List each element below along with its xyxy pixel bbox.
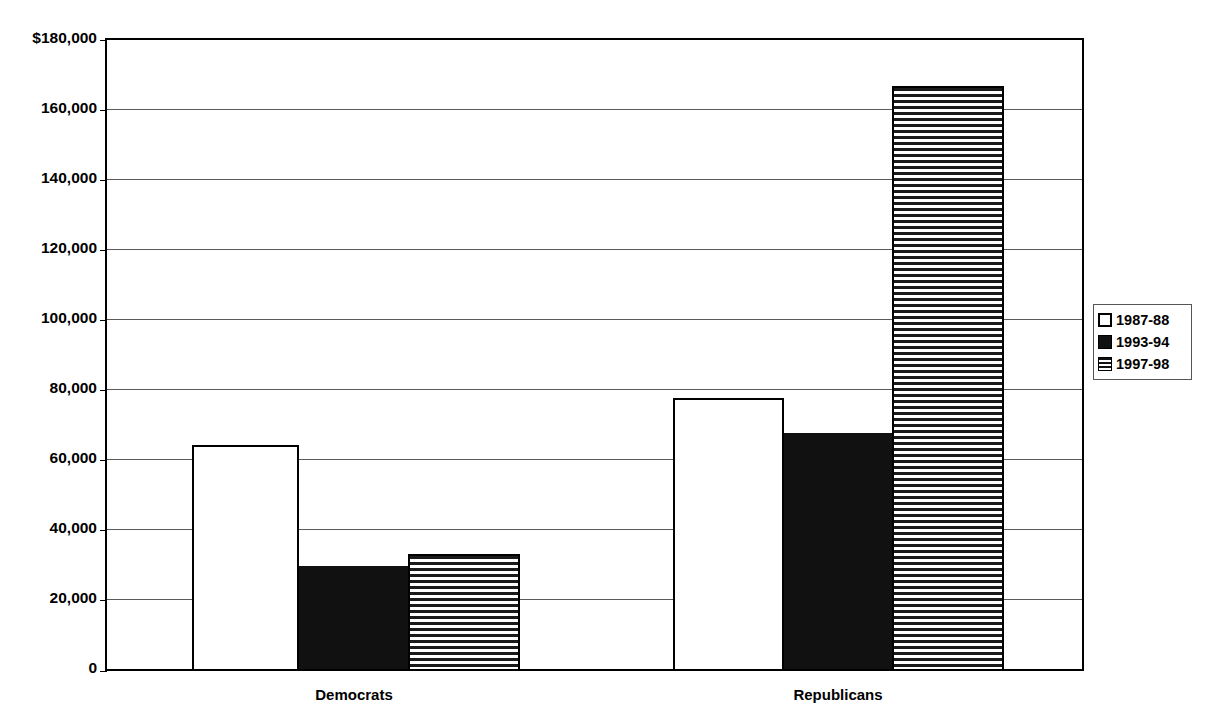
legend-swatch-icon-1987-88 (1098, 313, 1112, 327)
x-axis-label-republicans: Republicans (793, 686, 882, 703)
y-axis-label: 0 (88, 659, 97, 677)
legend-item-1997-98: 1997-98 (1098, 353, 1188, 375)
legend-label: 1987-88 (1116, 313, 1169, 328)
y-tick-mark (100, 250, 107, 251)
y-tick-mark (100, 110, 107, 111)
y-tick-mark (100, 600, 107, 601)
y-axis-label: 20,000 (50, 589, 97, 607)
legend-label: 1993-94 (1116, 335, 1169, 350)
y-axis-label: 120,000 (41, 239, 97, 257)
y-axis-label: 160,000 (41, 99, 97, 117)
legend-swatch-icon-1997-98 (1098, 357, 1112, 371)
y-axis-label: 140,000 (41, 169, 97, 187)
gridline-0 (107, 669, 1082, 671)
y-tick-mark (100, 530, 107, 531)
bar-republicans-1993-94 (784, 433, 892, 669)
bar-republicans-1997-98 (892, 86, 1004, 669)
bar-chart: $180,000 160,000 140,000 120,000 100,000… (0, 0, 1206, 722)
legend-label: 1997-98 (1116, 357, 1169, 372)
y-axis-label: 80,000 (50, 379, 97, 397)
y-axis-label: 60,000 (50, 449, 97, 467)
legend-item-1987-88: 1987-88 (1098, 309, 1188, 331)
bar-democrats-1993-94 (299, 566, 408, 669)
legend-item-1993-94: 1993-94 (1098, 331, 1188, 353)
legend-swatch-icon-1993-94 (1098, 335, 1112, 349)
y-tick-mark (100, 40, 107, 41)
y-tick-mark (100, 320, 107, 321)
gridline-180000 (107, 39, 1082, 40)
plot-area (105, 38, 1084, 671)
y-tick-mark (100, 180, 107, 181)
bar-republicans-1987-88 (673, 398, 784, 669)
bar-democrats-1997-98 (408, 554, 520, 670)
legend: 1987-88 1993-94 1997-98 (1093, 304, 1192, 380)
y-axis-label: 100,000 (41, 309, 97, 327)
bar-democrats-1987-88 (192, 445, 299, 669)
x-axis-label-democrats: Democrats (315, 686, 393, 703)
y-axis-label: 40,000 (50, 519, 97, 537)
y-tick-mark (100, 460, 107, 461)
y-tick-mark (100, 390, 107, 391)
y-tick-mark (100, 671, 107, 672)
y-axis-label: $180,000 (32, 29, 97, 47)
